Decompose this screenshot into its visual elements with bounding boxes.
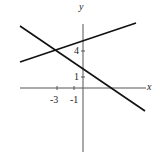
x-axis-label: x (147, 82, 151, 92)
y-axis-label: y (79, 2, 83, 12)
x-tick-label-neg1: -1 (70, 95, 78, 105)
y-tick-label-1: 1 (74, 72, 79, 82)
x-tick-label-neg3: -3 (50, 95, 58, 105)
rising-line (20, 23, 136, 62)
y-tick-label-4: 4 (74, 46, 79, 56)
coordinate-plane (0, 0, 160, 160)
